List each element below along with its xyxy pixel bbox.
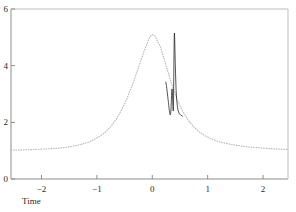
y-axis-ticks: [11, 9, 15, 179]
x-tick-label: −1: [92, 185, 102, 194]
data-series-layer: [11, 33, 288, 150]
x-axis-ticks: [41, 175, 263, 179]
y-tick-label: 2: [4, 118, 9, 127]
plot-canvas: [0, 0, 296, 212]
x-tick-label: 1: [205, 185, 210, 194]
x-tick-label: 2: [261, 185, 266, 194]
chart-figure: −2−1012 0246 Time: [0, 0, 296, 212]
y-tick-label: 4: [4, 61, 9, 70]
y-tick-label: 0: [4, 175, 9, 184]
data-series-path: [11, 35, 288, 151]
x-tick-label: 0: [150, 185, 155, 194]
x-tick-label: −2: [37, 185, 47, 194]
axes-frame: [11, 9, 288, 179]
y-tick-label: 6: [4, 5, 9, 14]
data-series-path: [166, 33, 183, 116]
x-axis-title: Time: [22, 197, 41, 206]
